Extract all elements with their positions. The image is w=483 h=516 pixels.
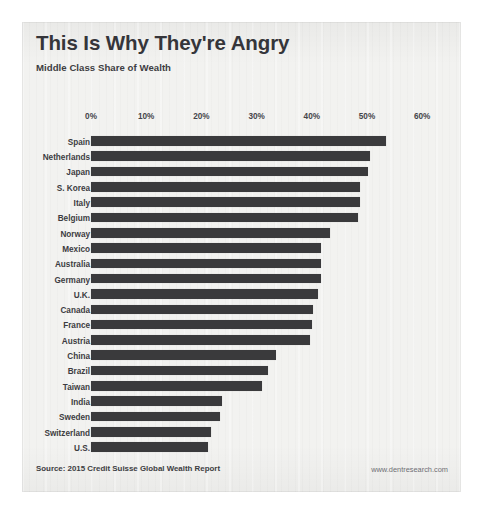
bar-fill <box>91 136 386 146</box>
x-tick-label: 20% <box>193 112 209 121</box>
bar-row: Switzerland <box>22 425 461 440</box>
bar-track <box>91 243 321 253</box>
bar-row: Belgium <box>22 211 461 226</box>
scanned-chart-card: This Is Why They're Angry Middle Class S… <box>22 22 461 492</box>
bar-category-label: U.S. <box>74 444 90 453</box>
bar-track <box>91 274 321 284</box>
bar-track <box>91 305 313 315</box>
bar-fill <box>91 197 360 207</box>
bar-category-label: S. Korea <box>57 183 90 192</box>
bar-row: Italy <box>22 195 461 210</box>
bar-category-label: China <box>67 352 90 361</box>
bar-track <box>91 412 220 422</box>
bar-category-label: Italy <box>74 198 90 207</box>
x-tick-label: 50% <box>359 112 375 121</box>
bar-fill <box>91 427 211 437</box>
bar-row: U.S. <box>22 440 461 455</box>
bar-category-label: Mexico <box>62 244 90 253</box>
bar-category-label: Netherlands <box>43 152 90 161</box>
bar-category-label: Sweden <box>59 413 90 422</box>
bar-track <box>91 442 208 452</box>
bar-category-label: Germany <box>55 275 91 284</box>
bar-row: Mexico <box>22 241 461 256</box>
bar-fill <box>91 213 358 223</box>
x-tick-label: 10% <box>138 112 154 121</box>
x-tick-label: 40% <box>304 112 320 121</box>
bar-fill <box>91 442 208 452</box>
chart-subtitle: Middle Class Share of Wealth <box>36 62 289 73</box>
bar-row: Canada <box>22 303 461 318</box>
x-tick-label: 30% <box>248 112 264 121</box>
bar-fill <box>91 396 222 406</box>
bar-category-label: India <box>71 398 90 407</box>
bar-track <box>91 197 360 207</box>
bar-rows-container: SpainNetherlandsJapanS. KoreaItalyBelgiu… <box>22 134 461 456</box>
bar-fill <box>91 228 330 238</box>
bar-category-label: Canada <box>60 306 90 315</box>
chart-footer: Source: 2015 Credit Suisse Global Wealth… <box>22 464 461 478</box>
bar-track <box>91 182 360 192</box>
bar-fill <box>91 335 310 345</box>
bar-track <box>91 259 321 269</box>
bar-category-label: Norway <box>60 229 90 238</box>
bar-row: Netherlands <box>22 149 461 164</box>
bar-row: Brazil <box>22 364 461 379</box>
bar-row: India <box>22 394 461 409</box>
site-credit: www.dentresearch.com <box>371 465 448 474</box>
bar-category-label: Brazil <box>68 367 90 376</box>
bar-row: Sweden <box>22 410 461 425</box>
bar-fill <box>91 259 321 269</box>
bar-track <box>91 289 318 299</box>
bar-category-label: Belgium <box>58 214 90 223</box>
bar-track <box>91 151 370 161</box>
bar-row: Norway <box>22 226 461 241</box>
bar-category-label: Australia <box>55 260 90 269</box>
bar-fill <box>91 167 368 177</box>
chart-title: This Is Why They're Angry <box>36 32 289 54</box>
bar-category-label: Switzerland <box>45 428 91 437</box>
bar-row: S. Korea <box>22 180 461 195</box>
bar-row: Spain <box>22 134 461 149</box>
bar-category-label: Japan <box>66 168 90 177</box>
bar-track <box>91 335 310 345</box>
bar-track <box>91 381 262 391</box>
bar-fill <box>91 274 321 284</box>
bar-track <box>91 366 268 376</box>
bar-row: France <box>22 318 461 333</box>
bar-category-label: U.K. <box>74 290 90 299</box>
bar-chart-plot-area: 0%10%20%30%40%50%60% SpainNetherlandsJap… <box>22 112 461 462</box>
bar-track <box>91 350 276 360</box>
bar-fill <box>91 412 220 422</box>
bar-fill <box>91 320 312 330</box>
bar-row: Germany <box>22 272 461 287</box>
bar-fill <box>91 243 321 253</box>
bar-row: Japan <box>22 165 461 180</box>
bar-track <box>91 136 386 146</box>
bar-track <box>91 427 211 437</box>
bar-fill <box>91 305 313 315</box>
bar-track <box>91 396 222 406</box>
bar-row: China <box>22 348 461 363</box>
bar-track <box>91 228 330 238</box>
x-axis-tick-labels: 0%10%20%30%40%50%60% <box>22 112 461 132</box>
bar-fill <box>91 182 360 192</box>
bar-category-label: Spain <box>68 137 90 146</box>
bar-category-label: Austria <box>62 336 90 345</box>
bar-row: Austria <box>22 333 461 348</box>
bar-track <box>91 167 368 177</box>
chart-header: This Is Why They're Angry Middle Class S… <box>36 32 289 73</box>
x-tick-label: 0% <box>85 112 97 121</box>
bar-fill <box>91 151 370 161</box>
bar-fill <box>91 381 262 391</box>
bar-category-label: Taiwan <box>63 382 90 391</box>
bar-track <box>91 213 358 223</box>
bar-category-label: France <box>63 321 90 330</box>
bar-row: U.K. <box>22 287 461 302</box>
x-tick-label: 60% <box>414 112 430 121</box>
bar-fill <box>91 289 318 299</box>
bar-fill <box>91 350 276 360</box>
source-note: Source: 2015 Credit Suisse Global Wealth… <box>36 464 220 473</box>
bar-row: Taiwan <box>22 379 461 394</box>
bar-track <box>91 320 312 330</box>
bar-fill <box>91 366 268 376</box>
